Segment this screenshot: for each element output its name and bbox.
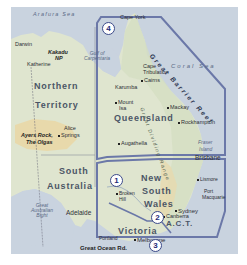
city-canberra: Canberra <box>163 214 189 220</box>
act-label: A.C.T. <box>166 220 193 228</box>
city-port-macquarie-2: Macquarie <box>202 195 225 200</box>
city-lismore: Lismore <box>197 177 218 182</box>
city-mackay: Mackay <box>167 105 189 111</box>
region-badge-3[interactable]: 3 <box>149 239 162 252</box>
arafura-sea-label: Arafura Sea <box>33 12 76 18</box>
nsw-label-1: New <box>141 174 162 183</box>
city-katherine: Katherine <box>27 62 51 68</box>
city-cape-york: Cape York <box>120 15 145 21</box>
northern-territory-label-2: Territory <box>35 101 79 110</box>
ayers-rock-label-1: Ayers Rock, <box>21 133 53 139</box>
city-mount-isa-2: Isa <box>119 106 126 112</box>
nsw-label-2: South <box>142 187 172 196</box>
nsw-label-3: Wales <box>144 200 174 209</box>
victoria-label: Victoria <box>118 227 157 236</box>
fraser-island-label-1: Fraser <box>198 140 212 145</box>
region-badge-1[interactable]: 1 <box>110 174 123 187</box>
south-australia-label-2: Australia <box>47 182 93 191</box>
great-australian-bight-label: Great Australian Bight <box>25 203 59 218</box>
coral-sea-label: Coral Sea <box>171 63 216 69</box>
gulf-of-carpentaria-label: Gulf of Carpentaria <box>81 51 113 61</box>
kakadu-np-label-2: NP <box>55 56 63 62</box>
city-alice-springs-1: Alice <box>64 126 76 132</box>
city-portland: Portland <box>99 236 118 241</box>
region-badge-2[interactable]: 2 <box>151 211 164 224</box>
fraser-island-label-2: Island <box>199 147 212 152</box>
city-brisbane: Brisbane <box>195 155 221 162</box>
city-broken-hill-2: Hill <box>119 197 126 202</box>
city-karumba: Karumba <box>115 85 137 91</box>
city-augathella: Augathella <box>118 141 147 147</box>
australia-map: Arafura Sea Coral Sea Gulf of Carpentari… <box>11 7 238 254</box>
south-australia-label-1: South <box>59 167 89 176</box>
city-cairns: Cairns <box>141 78 160 84</box>
ayers-rock-label-2: The Olgas <box>26 140 53 146</box>
city-alice-springs-2: Springs <box>58 133 80 139</box>
city-darwin: Darwin <box>15 42 32 48</box>
northern-territory-label-1: Northern <box>34 82 78 91</box>
region-badge-4[interactable]: 4 <box>102 22 115 35</box>
city-adelaide: Adelaide <box>66 210 91 217</box>
great-ocean-road-label: Great Ocean Rd. <box>80 245 127 251</box>
